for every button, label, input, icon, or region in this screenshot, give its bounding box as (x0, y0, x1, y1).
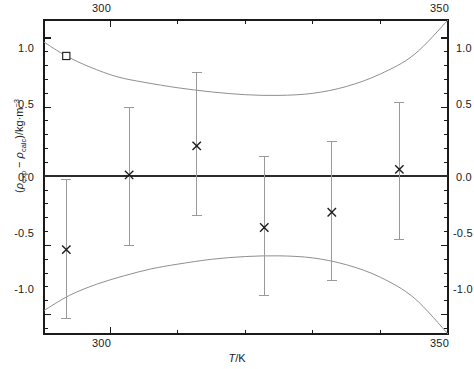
y-title-units: )/kg·m (13, 108, 25, 139)
lower-confidence-band (44, 256, 448, 334)
chart-figure: 300 350 300 350 1.0 0.5 0.0 -0.5 -1.0 1.… (0, 0, 474, 369)
right-axis-tick-label-neg1p0: -1.0 (453, 283, 473, 295)
right-axis-tick-label-1p0: 1.0 (456, 42, 472, 54)
y-title-open-paren: ( (13, 189, 25, 193)
top-axis-tick-label-350: 350 (430, 2, 449, 14)
y-title-rho-calc-symbol: ρ (13, 152, 25, 158)
upper-confidence-band (44, 20, 448, 95)
right-axis-tick-label-0p5: 0.5 (456, 98, 472, 110)
x-axis-title-units: /K (235, 352, 245, 364)
bottom-axis-tick-label-350: 350 (430, 337, 449, 349)
y-title-exp-subscript: exp (19, 171, 28, 183)
bottom-axis-tick-label-300: 300 (92, 337, 111, 349)
y-title-minus: − (13, 158, 25, 171)
y-title-calc-subscript: calc (19, 139, 28, 152)
left-axis-tick-label-neg0p5: -0.5 (0, 227, 34, 239)
right-axis-tick-label-neg0p5: -0.5 (453, 227, 473, 239)
y-axis-title: (ρexp − ρcalc)/kg·m−3 (13, 71, 25, 221)
y-title-rho-exp-symbol: ρ (13, 183, 25, 189)
plot-canvas (0, 0, 474, 369)
outlier-marker-square (63, 52, 70, 59)
top-axis-tick-label-300: 300 (92, 2, 111, 14)
right-axis-tick-label-0p0: 0.0 (456, 171, 472, 183)
left-axis-tick-label-neg1p0: -1.0 (0, 283, 34, 295)
left-axis-tick-label-1p0: 1.0 (0, 42, 34, 54)
y-title-units-exponent: −3 (12, 99, 21, 108)
x-axis-title: T/K (0, 352, 474, 364)
